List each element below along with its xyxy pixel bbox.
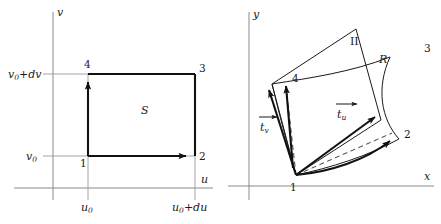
left-vertex-4: 4: [84, 58, 91, 70]
inner-edge-toward-vertex-2: [296, 141, 390, 175]
left-vertex-3: 3: [199, 62, 206, 74]
svg-text:tv: tv: [260, 121, 269, 135]
vector-label-t-v: tv: [259, 117, 277, 135]
svg-text:u0: u0: [81, 201, 93, 215]
right-panel-xy-plane: y x: [228, 8, 434, 200]
v-lower-subscript: 0: [32, 155, 37, 164]
svg-text:v0: v0: [26, 150, 37, 164]
region-curve-3-to-4: [272, 57, 390, 84]
region-label-r: R: [378, 53, 387, 66]
region-curve-2-to-3: [382, 57, 399, 139]
t-u-subscript: u: [341, 113, 346, 122]
right-vertex-1: 1: [290, 181, 297, 193]
tick-label-v-upper: v0+dv: [8, 68, 42, 82]
v-axis-label: v: [57, 6, 64, 19]
u-upper-tail: +du: [184, 201, 207, 214]
right-vertex-2: 2: [404, 128, 411, 140]
v-upper-tail: +dv: [19, 68, 42, 81]
u-upper-base: u: [172, 201, 179, 214]
left-vertex-2: 2: [199, 150, 206, 162]
right-vertex-3: 3: [424, 42, 431, 54]
u-axis-label: u: [201, 173, 208, 186]
region-curve-1-to-2: [296, 139, 399, 175]
svg-text:v0+dv: v0+dv: [8, 68, 42, 82]
vector-t-u-arrow: [296, 117, 375, 175]
parallelogram-label-II: II: [350, 35, 359, 48]
left-vertex-1: 1: [80, 157, 87, 169]
tick-label-v-lower: v0: [26, 150, 37, 164]
right-vertex-4: 4: [292, 72, 299, 84]
t-v-subscript: v: [264, 126, 269, 135]
left-panel-uv-plane: v u v0+dv v0 u0: [8, 6, 213, 215]
figure-canvas: v u v0+dv v0 u0: [0, 0, 441, 224]
y-axis-label: y: [252, 8, 260, 21]
u-lower-subscript: 0: [88, 206, 93, 215]
x-axis-label: x: [424, 170, 431, 183]
vector-label-t-u: tu: [336, 104, 357, 122]
change-of-variables-figure: v u v0+dv v0 u0: [0, 0, 441, 224]
svg-text:u0+du: u0+du: [172, 201, 207, 215]
svg-text:tu: tu: [337, 108, 346, 122]
u-lower-base: u: [81, 201, 88, 214]
tick-label-u-upper: u0+du: [172, 201, 207, 215]
region-label-s: S: [141, 104, 149, 117]
tick-label-u-lower: u0: [81, 201, 93, 215]
